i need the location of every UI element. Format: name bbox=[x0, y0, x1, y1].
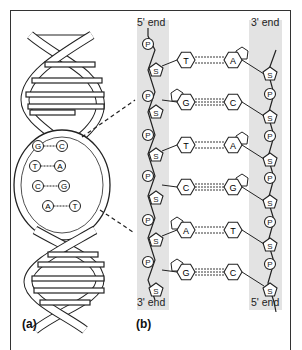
base-pair-row: TA bbox=[162, 47, 264, 74]
svg-text:T: T bbox=[33, 162, 38, 171]
svg-text:G: G bbox=[229, 183, 236, 193]
svg-text:C: C bbox=[59, 142, 65, 151]
svg-text:C: C bbox=[183, 183, 190, 193]
left-bottom-label: 3' end bbox=[137, 296, 165, 308]
panel-a-label: (a) bbox=[22, 317, 37, 331]
svg-text:T: T bbox=[73, 202, 78, 211]
svg-text:T: T bbox=[183, 141, 189, 151]
svg-text:C: C bbox=[230, 268, 237, 278]
right-bottom-label: 5' end bbox=[251, 296, 279, 308]
base-pair-row: TA bbox=[162, 132, 264, 159]
svg-text:C: C bbox=[230, 98, 237, 108]
right-top-label: 3' end bbox=[251, 16, 279, 28]
panel-b-label: (b) bbox=[136, 317, 151, 331]
svg-text:T: T bbox=[183, 56, 189, 66]
svg-text:G: G bbox=[182, 98, 189, 108]
svg-text:A: A bbox=[45, 202, 51, 211]
base-pair-row: AT bbox=[162, 217, 264, 244]
svg-text:A: A bbox=[183, 226, 189, 236]
svg-text:A: A bbox=[230, 141, 236, 151]
svg-text:A: A bbox=[57, 162, 63, 171]
svg-text:A: A bbox=[230, 56, 236, 66]
svg-text:G: G bbox=[182, 268, 189, 278]
svg-text:G: G bbox=[35, 142, 41, 151]
svg-text:C: C bbox=[35, 182, 41, 191]
base-pair-row: GC bbox=[162, 89, 264, 116]
base-pair-row: GC bbox=[162, 259, 264, 286]
left-top-label: 5' end bbox=[137, 16, 165, 28]
svg-text:G: G bbox=[61, 182, 67, 191]
svg-text:T: T bbox=[230, 226, 236, 236]
base-pair-row: CG bbox=[162, 174, 264, 201]
